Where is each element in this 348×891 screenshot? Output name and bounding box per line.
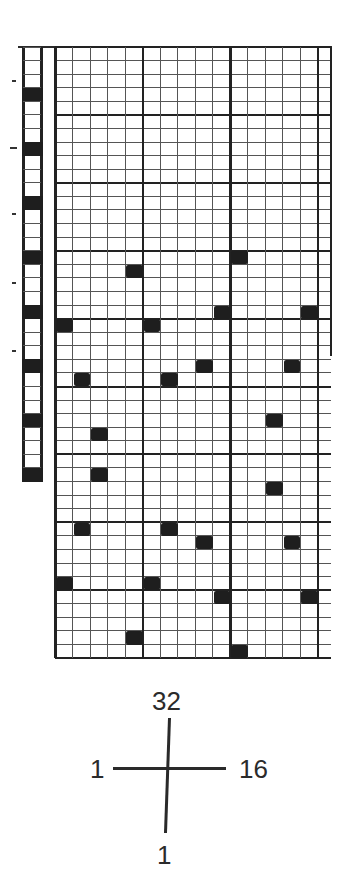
filled-stitch-cell (284, 536, 301, 549)
grid-row-line (55, 549, 331, 550)
filled-stitch-cell (126, 631, 143, 644)
grid-row-line (55, 169, 331, 170)
grid-col-line (54, 47, 57, 658)
grid-row-line (55, 209, 331, 210)
grid-col-line (300, 47, 301, 658)
grid-row-line (55, 291, 331, 292)
strip-row-line (23, 128, 41, 129)
grid-col-line (282, 47, 283, 658)
grid-row-line (55, 277, 331, 278)
grid-row-line (55, 521, 331, 523)
grid-row-line (55, 264, 331, 265)
grid-row-line (55, 101, 331, 102)
grid-row-line (55, 237, 331, 238)
grid-row-line (55, 142, 331, 143)
strip-filled-cell (22, 468, 43, 482)
filled-stitch-cell (266, 482, 283, 495)
strip-row-line (23, 169, 41, 170)
filled-stitch-cell (144, 577, 161, 590)
strip-row-line (23, 223, 41, 224)
filled-stitch-cell (301, 591, 318, 604)
side-tick-mark (12, 350, 16, 352)
grid-row-line (55, 182, 331, 184)
grid-row-line (55, 345, 331, 346)
strip-row-line (23, 400, 41, 401)
grid-col-line (212, 47, 213, 658)
grid-right-border (330, 47, 332, 356)
strip-row-line (23, 74, 41, 75)
grid-col-line (195, 47, 196, 658)
filled-stitch-cell (161, 373, 178, 386)
grid-row-line (55, 155, 331, 156)
grid-col-line (90, 47, 91, 658)
grid-row-line (55, 386, 331, 388)
strip-row-line (23, 47, 41, 48)
strip-row-line (23, 454, 41, 455)
strip-row-line (23, 291, 41, 292)
side-tick-mark (12, 282, 16, 284)
filled-stitch-cell (126, 265, 143, 278)
axis-bottom-label: 1 (157, 842, 171, 868)
axis-left-label: 1 (90, 756, 104, 782)
filled-stitch-cell (161, 523, 178, 536)
grid-col-line (317, 47, 320, 658)
side-tick-mark (10, 147, 17, 149)
axis-vertical-line (164, 718, 171, 833)
grid-col-line (125, 47, 126, 658)
filled-stitch-cell (74, 523, 91, 536)
grid-row-line (55, 495, 331, 496)
side-tick-mark (12, 213, 16, 215)
grid-row-line (55, 332, 331, 333)
filled-stitch-cell (91, 468, 108, 481)
grid-row-line (55, 196, 331, 197)
strip-filled-cell (22, 305, 43, 319)
grid-row-line (55, 46, 331, 48)
grid-row-line (55, 250, 331, 252)
strip-filled-cell (22, 359, 43, 373)
strip-row-line (23, 237, 41, 238)
grid-row-line (55, 508, 331, 509)
strip-filled-cell (22, 414, 43, 428)
filled-stitch-cell (301, 306, 318, 319)
strip-row-line (23, 277, 41, 278)
strip-row-line (23, 182, 41, 183)
strip-row-line (23, 114, 41, 115)
strip-row-line (23, 345, 41, 346)
strip-row-line (23, 60, 41, 61)
grid-col-line (72, 47, 73, 658)
strip-filled-cell (22, 196, 43, 210)
strip-filled-cell (22, 251, 43, 265)
grid-row-line (55, 657, 331, 659)
filled-stitch-cell (214, 306, 231, 319)
side-repeat-strip (23, 47, 41, 482)
filled-stitch-cell (91, 428, 108, 441)
grid-row-line (55, 400, 331, 401)
grid-row-line (55, 589, 331, 591)
strip-filled-cell (22, 88, 43, 102)
grid-row-line (55, 603, 331, 604)
filled-stitch-cell (56, 319, 73, 332)
grid-row-line (55, 617, 331, 618)
grid-row-line (55, 87, 331, 88)
filled-stitch-cell (74, 373, 91, 386)
grid-row-line (55, 128, 331, 129)
grid-row-line (55, 60, 331, 61)
grid-row-line (55, 576, 331, 577)
filled-stitch-cell (144, 319, 161, 332)
filled-stitch-cell (266, 414, 283, 427)
grid-col-line (265, 47, 266, 658)
grid-row-line (55, 413, 331, 414)
grid-col-line (177, 47, 178, 658)
strip-row-line (23, 386, 41, 387)
axis-right-label: 16 (239, 756, 268, 782)
filled-stitch-cell (214, 591, 231, 604)
grid-row-line (55, 630, 331, 631)
grid-row-line (55, 563, 331, 564)
grid-row-line (55, 223, 331, 224)
grid-row-line (55, 453, 331, 455)
side-tick-mark (12, 80, 16, 82)
grid-row-line (55, 644, 331, 645)
grid-col-line (107, 47, 108, 658)
strip-filled-cell (22, 142, 43, 156)
filled-stitch-cell (196, 360, 213, 373)
